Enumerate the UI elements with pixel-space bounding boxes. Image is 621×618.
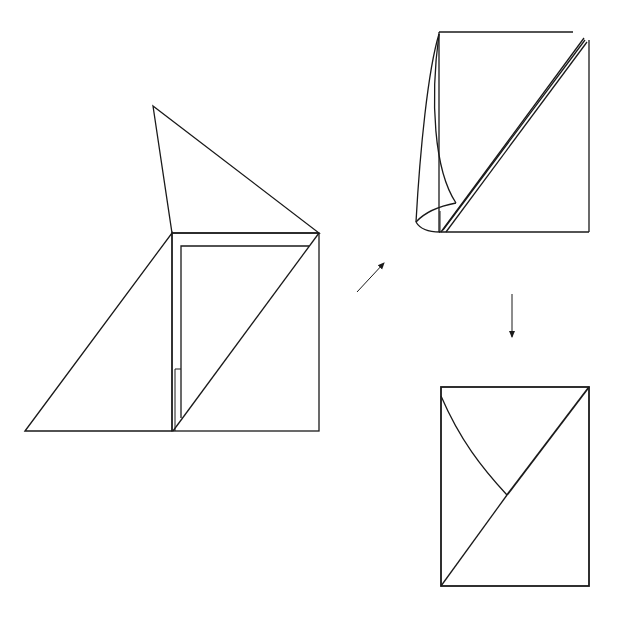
arrow-up-right-icon	[357, 263, 384, 292]
folding-diagram	[0, 0, 621, 618]
step-2-figure	[416, 32, 589, 232]
top-triangle-flap	[153, 106, 319, 233]
curl-flap-lip-bottom	[416, 222, 440, 232]
step-3-figure	[441, 387, 589, 586]
result-diagonal-lower	[441, 495, 507, 586]
diagonal-fold-inner	[446, 42, 587, 232]
curl-flap-inner-edge	[435, 34, 456, 203]
diagonal-fold	[173, 233, 319, 431]
diagonal-fold-middle	[443, 40, 585, 230]
left-triangle-flap	[25, 233, 172, 431]
result-curved-fold-edge	[441, 396, 507, 495]
result-diagonal-upper	[507, 387, 589, 495]
step-1-figure	[25, 106, 319, 431]
